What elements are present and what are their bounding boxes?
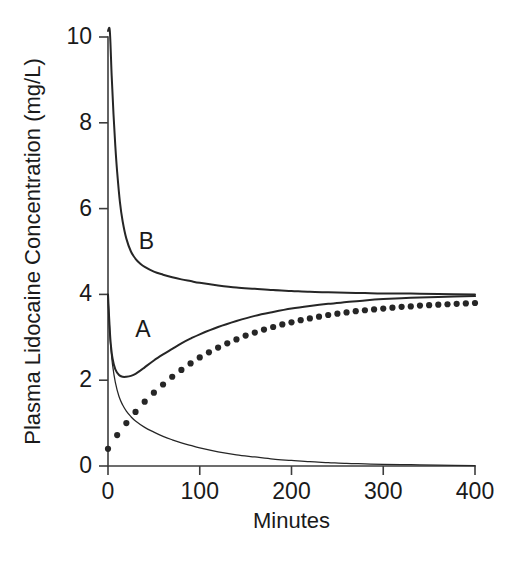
series-point <box>472 300 478 306</box>
series-point <box>334 311 340 317</box>
x-tick-label: 300 <box>364 478 402 504</box>
series-point <box>261 326 267 332</box>
series-point <box>325 312 331 318</box>
series-point <box>114 432 120 438</box>
y-tick-label: 8 <box>79 109 92 135</box>
series-point <box>380 305 386 311</box>
x-axis-title: Minutes <box>253 508 330 533</box>
data-series-group <box>105 28 478 466</box>
chart-canvas: 0246810 0100200300400 BA Minutes Plasma … <box>0 0 520 573</box>
series-point <box>435 302 441 308</box>
series-point <box>343 309 349 315</box>
series-point <box>408 303 414 309</box>
curve-label-a: A <box>135 316 151 342</box>
series-point <box>362 307 368 313</box>
series-point <box>371 306 377 312</box>
series-point <box>224 340 230 346</box>
series-point <box>316 314 322 320</box>
series-point <box>444 301 450 307</box>
series-point <box>206 349 212 355</box>
y-tick-label: 6 <box>79 195 92 221</box>
axes-group: 0246810 0100200300400 <box>66 23 494 504</box>
x-tick-label: 100 <box>181 478 219 504</box>
curve-annotations: BA <box>135 228 154 342</box>
x-tick-label: 200 <box>272 478 310 504</box>
series-point <box>288 319 294 325</box>
series-point <box>105 446 111 452</box>
series-point <box>463 300 469 306</box>
series-infusion-only <box>105 300 478 452</box>
series-point <box>307 315 313 321</box>
y-tick-label: 4 <box>79 280 92 306</box>
series-point <box>279 321 285 327</box>
series-point <box>187 360 193 366</box>
x-tick-label: 400 <box>456 478 494 504</box>
series-point <box>123 420 129 426</box>
x-tick-label: 0 <box>102 478 115 504</box>
series-point <box>151 390 157 396</box>
series-point <box>178 367 184 373</box>
series-point <box>426 302 432 308</box>
series-point <box>270 324 276 330</box>
series-point <box>233 336 239 342</box>
series-point <box>215 345 221 351</box>
y-axis-title: Plasma Lidocaine Concentration (mg/L) <box>20 58 45 444</box>
series-point <box>243 332 249 338</box>
series-point <box>298 317 304 323</box>
series-point <box>132 409 138 415</box>
figure-container: 0246810 0100200300400 BA Minutes Plasma … <box>0 0 520 573</box>
y-tick-label: 2 <box>79 366 92 392</box>
series-point <box>399 304 405 310</box>
series-B <box>108 28 475 295</box>
y-tick-label: 10 <box>66 23 92 49</box>
x-axis-ticks: 0100200300400 <box>102 466 495 504</box>
series-point <box>160 381 166 387</box>
curve-label-b: B <box>139 228 154 254</box>
y-axis-ticks: 0246810 <box>66 23 108 478</box>
series-point <box>142 399 148 405</box>
series-point <box>169 374 175 380</box>
series-point <box>353 308 359 314</box>
y-tick-label: 0 <box>79 452 92 478</box>
series-point <box>252 329 258 335</box>
series-point <box>417 302 423 308</box>
series-point <box>454 301 460 307</box>
series-point <box>197 354 203 360</box>
series-point <box>389 305 395 311</box>
